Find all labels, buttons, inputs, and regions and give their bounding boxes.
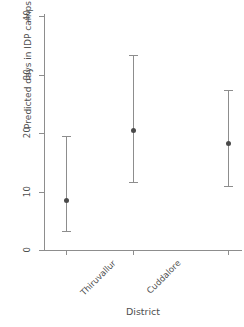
errorbar-cap-upper — [129, 55, 138, 56]
data-point-cuddalore — [131, 128, 136, 133]
errorbar-cap-upper — [224, 90, 233, 91]
errorbar-cap-lower — [224, 186, 233, 187]
chart-figure: 403020100 Predicted days in IDP camps Th… — [0, 0, 244, 327]
data-point-nagapattinam — [226, 141, 231, 146]
errorbar-line — [133, 55, 134, 181]
data-series-predicted-days — [0, 0, 244, 327]
errorbar-line — [228, 90, 229, 187]
errorbar-cap-upper — [62, 136, 71, 137]
errorbar-line — [66, 136, 67, 231]
errorbar-cap-lower — [62, 231, 71, 232]
errorbar-cap-lower — [129, 182, 138, 183]
data-point-thiruvallur — [64, 198, 69, 203]
